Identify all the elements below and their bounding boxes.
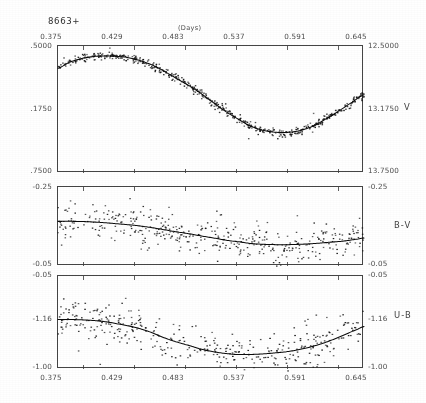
y-tick-right-v-0: 12.5000 xyxy=(368,41,418,50)
y-tick-right-ub-0: -0.05 xyxy=(368,270,418,279)
panel-ub-plot-area xyxy=(58,276,364,369)
panel-v-plot-area xyxy=(58,46,364,173)
x-tick-bottom-2: 0.483 xyxy=(154,373,192,382)
y-tick-left-ub-2: -1.00 xyxy=(8,362,52,371)
panel-bv-plot-area xyxy=(58,187,364,266)
object-identifier-label: 8663+ xyxy=(48,16,80,26)
x-tick-bottom-1: 0.429 xyxy=(93,373,131,382)
y-tick-left-bv-1: -0.05 xyxy=(8,259,52,268)
y-tick-left-v-1: .1750 xyxy=(8,104,52,113)
panel-v xyxy=(57,45,363,172)
series-label-v: V xyxy=(404,102,411,112)
y-tick-left-ub-0: -0.05 xyxy=(8,270,52,279)
series-label-ub: U-B xyxy=(394,310,412,320)
panel-bv xyxy=(57,186,363,265)
x-tick-top-3: 0.537 xyxy=(215,32,253,41)
x-tick-top-2: 0.483 xyxy=(154,32,192,41)
x-tick-bottom-3: 0.537 xyxy=(215,373,253,382)
x-tick-top-1: 0.429 xyxy=(93,32,131,41)
light-curve-figure: 8663+ (Days) 0.375 0.429 0.483 0.537 0.5… xyxy=(0,0,426,403)
x-tick-top-4: 0.591 xyxy=(276,32,314,41)
x-tick-bottom-0: 0.375 xyxy=(32,373,70,382)
y-tick-left-v-2: .7500 xyxy=(8,166,52,175)
series-label-bv: B-V xyxy=(394,220,411,230)
x-tick-top-5: 0.645 xyxy=(337,32,375,41)
y-tick-left-ub-1: -1.16 xyxy=(8,314,52,323)
y-tick-left-v-0: .5000 xyxy=(8,41,52,50)
y-tick-right-v-2: 13.7500 xyxy=(368,166,418,175)
panel-ub xyxy=(57,275,363,368)
x-tick-bottom-5: 0.645 xyxy=(337,373,375,382)
x-tick-top-0: 0.375 xyxy=(32,32,70,41)
y-tick-right-ub-2: -1.00 xyxy=(368,362,418,371)
y-tick-right-bv-1: -0.05 xyxy=(368,259,418,268)
y-tick-right-bv-0: -0.25 xyxy=(368,182,418,191)
x-axis-title-top: (Days) xyxy=(178,24,201,32)
x-tick-bottom-4: 0.591 xyxy=(276,373,314,382)
y-tick-left-bv-0: -0.25 xyxy=(8,182,52,191)
